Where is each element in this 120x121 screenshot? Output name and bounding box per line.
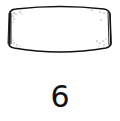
figure-canvas: 6: [0, 0, 120, 121]
stipple-dots: [13, 10, 107, 47]
bead-outline: [9, 7, 111, 53]
figure-number-label: 6: [0, 80, 120, 114]
